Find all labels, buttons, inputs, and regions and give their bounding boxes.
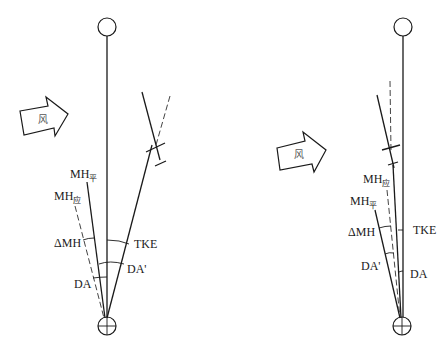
mh-should-line: [75, 206, 104, 318]
da-prime-arc: [99, 262, 124, 264]
aircraft-heading-line: [377, 95, 394, 168]
mh-flat-label: MH平: [350, 194, 377, 210]
wind-label: 风: [294, 149, 304, 160]
delta-mh-label: ΔMH: [348, 225, 375, 239]
wind-correction-diagram: 风 MH平 MH应 ΔMH DA TKE DA': [0, 0, 445, 348]
wind-label: 风: [38, 114, 48, 125]
destination-icon: [98, 18, 116, 36]
station-icon: [98, 317, 116, 335]
mh-should-label: MH应: [54, 189, 81, 205]
aircraft-dashed-line: [390, 81, 391, 150]
delta-mh-arc: [83, 238, 94, 240]
left-diagram: 风 MH平 MH应 ΔMH DA TKE DA': [20, 18, 170, 335]
da-label: DA: [74, 277, 92, 291]
track-line: [107, 145, 152, 318]
da-prime-label: DA': [127, 262, 147, 276]
mh-should-label: MH应: [363, 172, 390, 188]
right-diagram: 风 MH应 MH平 ΔMH DA' TKE DA: [277, 18, 436, 335]
station-icon: [393, 317, 411, 335]
wind-arrow: 风: [20, 97, 68, 136]
delta-mh-arc: [379, 226, 391, 228]
tke-arc: [107, 240, 129, 244]
da-label: DA: [410, 267, 428, 281]
mh-flat-label: MH平: [70, 167, 97, 183]
mh-flat-line: [87, 182, 105, 318]
destination-icon: [394, 18, 412, 36]
aircraft-dashed-line: [156, 96, 170, 145]
aircraft-tail-mark: [155, 161, 166, 166]
delta-mh-label: ΔMH: [54, 236, 81, 250]
da-prime-label: DA': [361, 259, 381, 273]
da-prime-arc: [385, 253, 394, 254]
wind-arrow: 风: [277, 132, 326, 172]
tke-label: TKE: [413, 223, 436, 237]
tke-label: TKE: [134, 237, 157, 251]
